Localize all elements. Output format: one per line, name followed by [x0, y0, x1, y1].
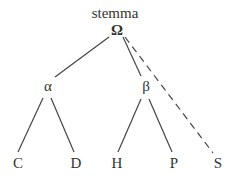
node-d: D — [71, 156, 82, 171]
edge-beta-h — [118, 99, 141, 152]
node-p: P — [170, 156, 178, 171]
edge-omega-s-dashed — [125, 37, 213, 153]
edge-omega-beta — [123, 37, 141, 76]
node-alpha: α — [44, 79, 52, 94]
node-c: C — [13, 156, 23, 171]
edge-alpha-c — [18, 98, 43, 152]
node-omega: Ω — [111, 23, 123, 38]
node-h: H — [112, 156, 123, 171]
edge-beta-p — [149, 99, 172, 152]
edge-omega-alpha — [55, 37, 109, 77]
edge-alpha-d — [51, 98, 74, 152]
node-s: S — [214, 156, 222, 171]
node-beta: β — [142, 79, 150, 94]
diagram-title: stemma — [92, 6, 139, 21]
